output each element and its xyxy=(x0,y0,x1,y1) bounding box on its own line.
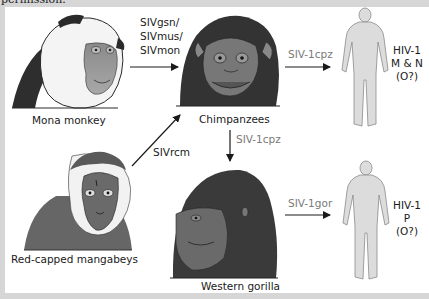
human-figure-bottom xyxy=(343,161,389,279)
outcome-hiv1-bottom: HIV-1 xyxy=(393,199,421,211)
human-figure-top xyxy=(342,8,388,126)
chimpanzee-illustration xyxy=(176,16,280,106)
outcome-group-p-bottom: P xyxy=(404,212,410,224)
transmission-diagram: Mona monkey SIVgsn/ SIVmus/ SIVmon Chimp… xyxy=(0,0,429,299)
outcome-groups-top: M & N xyxy=(391,57,423,69)
virus-label-siv1cpz-human: SIV-1cpz xyxy=(288,48,333,60)
outcome-o-top: (O?) xyxy=(396,70,418,82)
western-gorilla-illustration xyxy=(170,170,278,278)
virus-label-siv1gor: SIV-1gor xyxy=(288,197,333,209)
virus-label-sivgsn: SIVgsn/ xyxy=(140,16,180,28)
arrow-mangabey-to-chimp xyxy=(132,115,180,166)
virus-label-sivrcm: SIVrcm xyxy=(153,146,190,158)
chimpanzee-label: Chimpanzees xyxy=(199,113,270,125)
mona-monkey-illustration xyxy=(12,15,124,108)
outcome-hiv1-top: HIV-1 xyxy=(393,44,421,56)
virus-label-sivmus: SIVmus/ xyxy=(140,30,183,42)
red-capped-mangabey-label: Red-capped mangabeys xyxy=(11,253,138,265)
virus-label-siv1cpz-gorilla: SIV-1cpz xyxy=(236,133,281,145)
mona-monkey-label: Mona monkey xyxy=(32,114,106,126)
western-gorilla-label: Western gorilla xyxy=(201,280,280,292)
outcome-o-bottom: (O?) xyxy=(396,225,418,237)
red-capped-mangabey-illustration xyxy=(24,152,132,250)
virus-label-sivmon: SIVmon xyxy=(140,44,180,56)
